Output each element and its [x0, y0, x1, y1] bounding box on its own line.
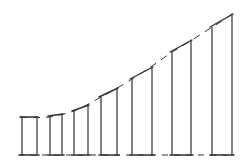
bars [20, 14, 234, 155]
bar-1 [20, 117, 39, 155]
bar-3 [72, 105, 90, 155]
bar-5 [130, 67, 154, 155]
riemann-sketch-diagram [0, 0, 242, 168]
sketch-svg [0, 0, 242, 168]
bar-7 [210, 14, 234, 155]
curve-path [20, 14, 232, 118]
bar-6 [170, 40, 193, 155]
bar-4 [99, 88, 119, 155]
dashed-curve [20, 14, 232, 118]
bar-2 [48, 114, 64, 155]
